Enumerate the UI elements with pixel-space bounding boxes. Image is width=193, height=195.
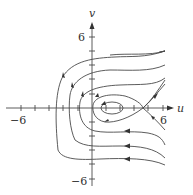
orbit-arrow-icon [101,101,106,105]
u-axis-label: u [177,102,184,115]
traj-2 [69,65,165,158]
axes: v u 6 −6 −6 6 [6,7,184,188]
traj-1-arrow-icon [62,72,65,78]
loop-arrow-top-icon [95,93,99,97]
v-tick-label-neg: −6 [71,175,87,188]
traj-3-arrow-bottom-icon [124,129,130,134]
v-axis-label: v [89,7,96,20]
traj-4 [58,150,165,165]
loop-arrow-bottom-icon [104,119,109,122]
traj-4-arrow-icon [124,157,130,162]
u-axis-arrow-icon [167,106,174,111]
traj-3-arrow-icon [81,91,84,97]
u-tick-label-neg: −6 [10,114,26,127]
traj-2-arrow-bottom-icon [124,144,130,149]
traj-1 [56,51,165,150]
traj-top [110,51,165,55]
v-tick-label-pos: 6 [78,31,85,44]
v-axis-arrow-icon [90,22,95,29]
phase-portrait: v u 6 −6 −6 6 [0,0,193,195]
